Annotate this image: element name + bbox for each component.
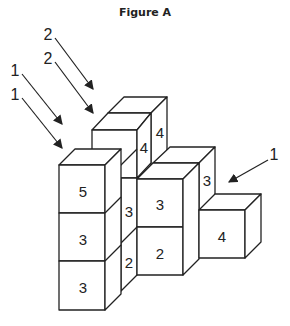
svg-text:1: 1	[270, 146, 279, 163]
cube-stack-diagram: 4 4 3 3 2 3 2 4	[0, 0, 290, 326]
label-right-cube: 4	[218, 228, 226, 245]
label-left-col-bot: 3	[79, 279, 87, 296]
arrow-top-lower: 2	[44, 50, 93, 114]
svg-text:1: 1	[11, 62, 20, 79]
svg-text:2: 2	[44, 50, 53, 67]
svg-text:2: 2	[44, 26, 53, 43]
left-column	[59, 149, 121, 310]
label-mid-back-side: 3	[203, 172, 211, 189]
right-cube	[199, 194, 261, 258]
arrow-left-lower: 1	[11, 86, 62, 149]
svg-text:1: 1	[11, 86, 20, 103]
middle-column	[137, 163, 199, 275]
label-left-col-mid: 3	[79, 231, 87, 248]
label-back-top-side: 4	[156, 124, 164, 141]
label-left-col-top: 5	[79, 183, 87, 200]
label-gap-upper: 3	[125, 203, 133, 220]
label-mid-col-bot: 2	[156, 245, 164, 262]
label-gap-lower: 2	[125, 254, 133, 271]
arrow-right: 1	[229, 146, 279, 183]
label-mid-col-top: 3	[156, 196, 164, 213]
label-back-top-front: 4	[140, 139, 148, 156]
